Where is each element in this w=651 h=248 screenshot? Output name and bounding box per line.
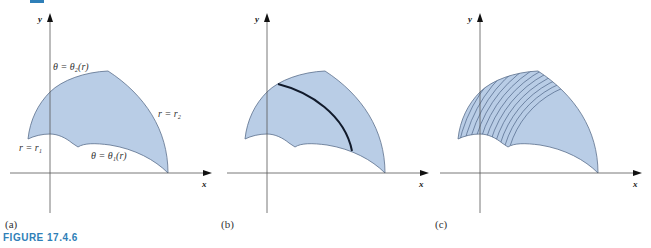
panel-a-diagram: x y θ = θ₂(r) r = r₂ r = r₁ θ = θ₁(r) <box>0 0 216 230</box>
region-shape <box>458 71 598 173</box>
label-theta2: θ = θ₂(r) <box>53 61 89 73</box>
panel-a: x y θ = θ₂(r) r = r₂ r = r₁ θ = θ₁(r) (a… <box>0 0 216 230</box>
y-axis-label: y <box>254 14 260 24</box>
panel-c-diagram: x y <box>430 0 651 230</box>
panel-c: x y (c) <box>430 0 646 230</box>
x-axis-arrow-icon <box>420 170 429 176</box>
label-r1: r = r₁ <box>19 142 42 153</box>
x-axis-label: x <box>632 179 638 189</box>
y-axis-label: y <box>467 14 473 24</box>
x-axis-label: x <box>418 179 424 189</box>
panel-label-a: (a) <box>5 218 17 230</box>
y-axis-arrow-icon <box>47 13 53 22</box>
x-axis-label: x <box>201 179 207 189</box>
x-axis-arrow-icon <box>633 170 642 176</box>
label-theta1: θ = θ₁(r) <box>91 150 127 162</box>
figure-caption: FIGURE 17.4.6 <box>3 232 78 243</box>
y-axis-arrow-icon <box>477 13 483 22</box>
panel-b: x y (b) <box>215 0 431 230</box>
region-shape <box>245 71 385 173</box>
panel-label-b: (b) <box>221 218 234 230</box>
x-axis-arrow-icon <box>203 170 212 176</box>
y-axis-label: y <box>37 14 43 24</box>
panel-label-c: (c) <box>435 218 447 230</box>
panel-b-diagram: x y <box>215 0 431 230</box>
label-r2: r = r₂ <box>158 108 182 119</box>
y-axis-arrow-icon <box>264 13 270 22</box>
